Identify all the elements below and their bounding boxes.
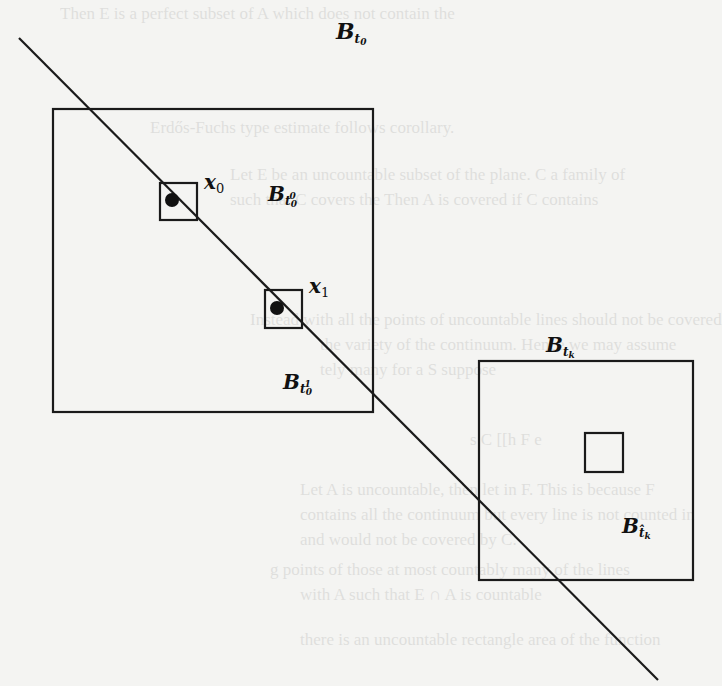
point-x0 xyxy=(165,193,179,207)
label-B-tk: Btk xyxy=(546,335,575,360)
point-x1 xyxy=(270,301,284,315)
label-x0: x0 xyxy=(204,172,224,195)
label-x1: x1 xyxy=(309,276,329,299)
ball-B-t0-square xyxy=(53,109,373,412)
ball-B-tk-hat-inner-square xyxy=(585,433,623,472)
label-B-t0-0: Bt00 xyxy=(268,184,297,209)
label-B-tk-hat: Bt̂k xyxy=(622,516,651,541)
label-B-t0: Bt0 xyxy=(336,20,366,47)
label-B-t0-1: Bt10 xyxy=(283,372,312,397)
